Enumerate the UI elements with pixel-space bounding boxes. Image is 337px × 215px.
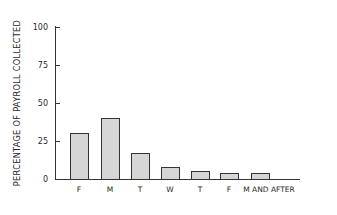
y-tick-mark	[55, 103, 60, 104]
x-tick-label: M AND AFTER	[243, 185, 295, 194]
y-axis-label: PERCENTAGE OF PAYROLL COLLECTED	[12, 20, 22, 186]
y-tick-label: 100	[28, 23, 48, 32]
y-tick-label: 50	[28, 99, 48, 108]
bar	[191, 171, 210, 179]
x-tick-label: F	[227, 185, 231, 194]
x-axis-line	[55, 179, 300, 180]
y-tick-mark	[55, 141, 60, 142]
y-tick-label: 0	[28, 175, 48, 184]
y-tick-label: 25	[28, 137, 48, 146]
x-tick-label: T	[198, 185, 203, 194]
bar	[251, 173, 270, 179]
bar	[70, 133, 89, 179]
bar	[101, 118, 120, 179]
x-tick-label: M	[107, 185, 113, 194]
x-tick-label: W	[166, 185, 173, 194]
y-tick-label: 75	[28, 61, 48, 70]
x-tick-label: T	[138, 185, 143, 194]
bar	[131, 153, 150, 179]
bar	[161, 167, 180, 179]
bar	[220, 173, 239, 179]
x-tick-label: F	[77, 185, 81, 194]
y-tick-mark	[55, 27, 60, 28]
y-tick-mark	[55, 65, 60, 66]
